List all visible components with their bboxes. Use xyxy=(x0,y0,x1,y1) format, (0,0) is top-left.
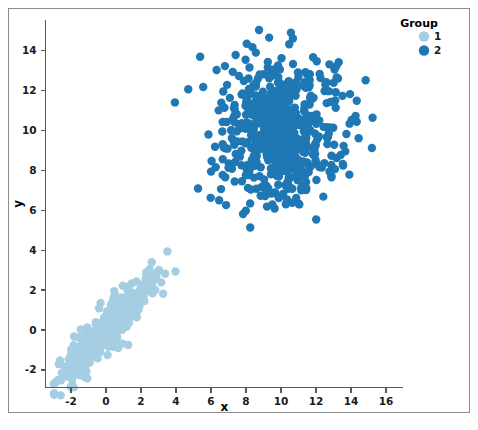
data-point xyxy=(342,130,350,138)
data-point xyxy=(299,181,307,189)
data-point xyxy=(304,124,312,132)
y-tick-label: 0 xyxy=(29,324,36,336)
data-point xyxy=(194,184,202,192)
data-point xyxy=(330,141,338,149)
data-point xyxy=(148,281,156,289)
data-point xyxy=(93,354,101,362)
legend-swatch-2[interactable] xyxy=(419,45,429,55)
data-point xyxy=(241,56,249,64)
data-point xyxy=(145,265,153,273)
data-point xyxy=(238,177,246,185)
data-point xyxy=(245,85,253,93)
data-point xyxy=(277,54,285,62)
data-point xyxy=(331,96,339,104)
data-point xyxy=(301,133,309,141)
data-point xyxy=(279,139,287,147)
data-point xyxy=(84,342,92,350)
data-point xyxy=(345,170,353,178)
data-point xyxy=(315,132,323,140)
data-point xyxy=(266,105,274,113)
data-point xyxy=(260,139,268,147)
data-point xyxy=(103,328,111,336)
x-tick-label: 10 xyxy=(274,395,289,407)
data-point xyxy=(252,158,260,166)
data-point xyxy=(353,97,361,105)
data-point xyxy=(351,112,359,120)
y-tick-label: 2 xyxy=(29,284,36,296)
y-tick-label: 12 xyxy=(22,84,37,96)
data-point xyxy=(292,165,300,173)
data-point xyxy=(103,314,111,322)
data-point xyxy=(83,323,91,331)
data-point xyxy=(206,194,214,202)
data-point xyxy=(265,33,273,41)
data-points-layer xyxy=(49,26,376,400)
data-point xyxy=(77,367,85,375)
data-point xyxy=(272,114,280,122)
x-axis-title: x xyxy=(220,400,228,414)
data-point xyxy=(57,376,65,384)
data-point xyxy=(217,185,225,193)
data-point xyxy=(275,172,283,180)
data-point xyxy=(238,137,246,145)
data-point xyxy=(292,194,300,202)
data-point xyxy=(65,373,73,381)
data-point xyxy=(267,147,275,155)
data-point xyxy=(232,150,240,158)
data-point xyxy=(221,62,229,70)
data-point xyxy=(218,140,226,148)
data-point xyxy=(92,319,100,327)
x-tick-label: 12 xyxy=(309,395,324,407)
data-point xyxy=(275,105,283,113)
data-point xyxy=(242,102,250,110)
data-point xyxy=(289,139,297,147)
legend-label-1: 1 xyxy=(434,30,441,42)
data-point xyxy=(84,354,92,362)
data-point xyxy=(161,270,169,278)
data-point xyxy=(220,104,228,112)
data-point xyxy=(267,89,275,97)
data-point xyxy=(346,90,354,98)
data-point xyxy=(211,143,219,151)
data-point xyxy=(130,304,138,312)
data-point xyxy=(212,66,220,74)
data-point xyxy=(250,132,258,140)
data-point xyxy=(326,123,334,131)
legend-layer: Group12 xyxy=(400,17,441,56)
data-point xyxy=(285,113,293,121)
y-axis-title: y xyxy=(11,200,25,208)
y-tick-label: 6 xyxy=(29,204,36,216)
data-point xyxy=(320,87,328,95)
data-point xyxy=(336,151,344,159)
x-tick-label: 0 xyxy=(102,395,109,407)
x-tick-label: 6 xyxy=(207,395,214,407)
data-point xyxy=(307,162,315,170)
data-point xyxy=(230,118,238,126)
data-point xyxy=(300,107,308,115)
data-point xyxy=(95,304,103,312)
scatter-plot-screenshot: -20246810121416-202468101214xy Group12 xyxy=(0,0,478,430)
y-tick-label: 8 xyxy=(29,164,36,176)
data-point xyxy=(308,112,316,120)
x-tick-label: 4 xyxy=(172,395,179,407)
y-tick-label: 10 xyxy=(22,124,37,136)
data-point xyxy=(276,132,284,140)
x-tick-label: -2 xyxy=(65,395,77,407)
x-tick-label: 14 xyxy=(344,395,359,407)
data-point xyxy=(274,181,282,189)
data-point xyxy=(244,184,252,192)
data-point xyxy=(171,98,179,106)
data-point xyxy=(285,174,293,182)
data-point xyxy=(339,142,347,150)
data-point xyxy=(267,189,275,197)
data-point xyxy=(171,267,179,275)
data-point xyxy=(244,123,252,131)
data-point xyxy=(272,161,280,169)
plot-canvas: -20246810121416-202468101214xy Group12 xyxy=(0,0,478,430)
data-point xyxy=(244,74,252,82)
data-point xyxy=(119,282,127,290)
data-point xyxy=(102,339,110,347)
legend-swatch-1[interactable] xyxy=(419,31,429,41)
data-point xyxy=(354,134,362,142)
data-point xyxy=(204,130,212,138)
